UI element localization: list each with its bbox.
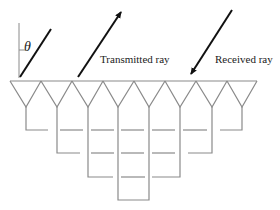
feed-network xyxy=(26,107,242,200)
received-ray-label: Received ray xyxy=(215,53,273,65)
antenna-element-7 xyxy=(196,81,227,107)
received-ray: Received ray xyxy=(191,10,273,74)
feed-line-6 xyxy=(152,107,180,177)
feed-line-3 xyxy=(88,107,113,177)
antenna-elements xyxy=(10,81,257,107)
transmitted-arrow-icon xyxy=(78,12,121,77)
theta-symbol: θ xyxy=(24,39,31,54)
phased-array-diagram: θ Transmitted ray Received ray xyxy=(0,0,280,210)
antenna-element-1 xyxy=(10,81,41,107)
antenna-element-6 xyxy=(165,81,196,107)
antenna-element-4 xyxy=(103,81,134,107)
antenna-element-5 xyxy=(134,81,165,107)
angle-indicator: θ xyxy=(19,23,51,78)
antenna-element-3 xyxy=(72,81,103,107)
feed-line-8 xyxy=(220,107,242,130)
feed-line-1 xyxy=(26,107,48,130)
antenna-element-8 xyxy=(227,81,257,107)
transmitted-ray-label: Transmitted ray xyxy=(100,53,170,65)
antenna-element-2 xyxy=(41,81,72,107)
transmitted-ray: Transmitted ray xyxy=(78,12,170,77)
